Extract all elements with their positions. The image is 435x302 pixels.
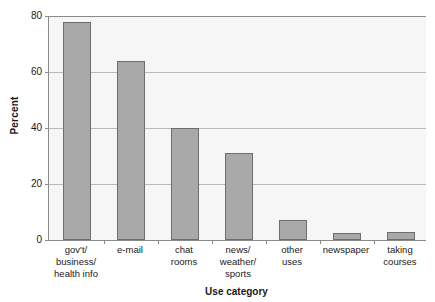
gridline <box>49 16 426 17</box>
y-axis-tick-labels: 020406080 <box>14 0 42 302</box>
x-category-label: chatrooms <box>153 244 215 268</box>
x-category-label-line: courses <box>369 256 431 268</box>
x-category-label: e-mail <box>99 244 161 256</box>
bar <box>225 153 253 240</box>
x-category-label-line: gov't/ <box>45 244 107 256</box>
x-category-label-line: news/ <box>207 244 269 256</box>
x-category-label: newspaper <box>315 244 377 256</box>
bar <box>171 128 199 240</box>
x-axis-title: Use category <box>48 286 425 297</box>
x-axis-category-labels: gov't/business/health infoe-mailchatroom… <box>48 244 425 290</box>
y-tick-mark <box>45 240 49 241</box>
y-tick-label: 80 <box>20 11 42 21</box>
x-category-label-line: health info <box>45 268 107 280</box>
bar <box>279 220 307 240</box>
bar <box>63 22 91 240</box>
gridline <box>49 72 426 73</box>
plot-area <box>48 16 426 241</box>
y-tick-mark <box>45 184 49 185</box>
bar <box>387 232 415 240</box>
y-tick-mark <box>45 128 49 129</box>
x-category-label-line: weather/ <box>207 256 269 268</box>
y-tick-label: 0 <box>20 235 42 245</box>
gridline <box>49 128 426 129</box>
x-category-label-line: uses <box>261 256 323 268</box>
y-tick-label: 60 <box>20 67 42 77</box>
y-tick-mark <box>45 16 49 17</box>
y-tick-label: 20 <box>20 179 42 189</box>
y-tick-mark <box>45 72 49 73</box>
x-category-label: gov't/business/health info <box>45 244 107 280</box>
x-category-label-line: e-mail <box>99 244 161 256</box>
x-category-label-line: business/ <box>45 256 107 268</box>
x-category-label-line: other <box>261 244 323 256</box>
x-category-label: otheruses <box>261 244 323 268</box>
bar <box>333 233 361 240</box>
y-tick-label: 40 <box>20 123 42 133</box>
x-category-label-line: chat <box>153 244 215 256</box>
x-category-label-line: sports <box>207 268 269 280</box>
bar-chart: Percent 020406080 gov't/business/health … <box>0 0 435 302</box>
x-category-label-line: taking <box>369 244 431 256</box>
x-category-label-line: rooms <box>153 256 215 268</box>
bar <box>117 61 145 240</box>
x-category-label-line: newspaper <box>315 244 377 256</box>
x-category-label: news/weather/sports <box>207 244 269 280</box>
x-category-label: takingcourses <box>369 244 431 268</box>
